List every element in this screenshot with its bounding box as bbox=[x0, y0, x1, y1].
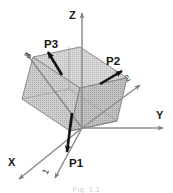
vector-label-p2: P2 bbox=[106, 55, 120, 67]
axis-label-x: X bbox=[8, 156, 16, 168]
figure-caption: Fig. 1.1 bbox=[0, 185, 173, 193]
axis-label-3: 3 bbox=[22, 51, 33, 61]
vector-label-p3: P3 bbox=[44, 38, 58, 50]
vector-label-p1: P1 bbox=[69, 157, 84, 169]
axis-label-z: Z bbox=[69, 9, 76, 21]
axis-label-y: Y bbox=[156, 109, 164, 121]
figure-container: Z Y X 3 2 1 P3 P2 P1 Fig. 1.1 bbox=[0, 0, 173, 193]
figure-canvas: Z Y X 3 2 1 P3 P2 P1 bbox=[0, 0, 173, 193]
axis-label-1: 1 bbox=[40, 167, 51, 176]
